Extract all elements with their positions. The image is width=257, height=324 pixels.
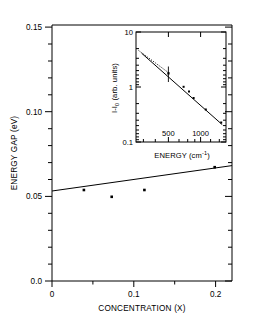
inset-yaxis-title: I-I0 (arb. units): [110, 63, 120, 113]
main-ytick-label-0: 0.0: [31, 277, 43, 286]
inset-plot: 10 1 0.1 500 1000 ENERGY (cm-1) I-I0 (ar…: [110, 28, 226, 160]
main-ytick-label-3: 0.15: [26, 23, 42, 32]
main-data-point: [83, 189, 86, 192]
main-yticks-major: [45, 27, 52, 281]
main-xtick-label-2: 0.2: [210, 290, 222, 299]
inset-data-point: [205, 109, 207, 111]
inset-xtick-labels: 500 1000: [162, 129, 209, 138]
inset-data-point: [193, 97, 195, 99]
inset-xaxis-title: ENERGY (cm-1): [154, 150, 210, 160]
inset-ytick-labels: 10 1 0.1: [122, 28, 133, 147]
figure-panel: 0.0 0.05 0.10 0.15 0 0.1 0.2 CONCENTRATI…: [0, 0, 257, 324]
inset-ytick-label-0: 0.1: [122, 138, 133, 147]
inset-data-point: [167, 72, 169, 74]
inset-frame: [136, 32, 226, 142]
main-data-point: [110, 196, 113, 199]
inset-xticks: [143, 32, 219, 142]
inset-fit-line: [142, 53, 223, 124]
inset-xtick-label-1: 1000: [192, 129, 209, 138]
main-xtick-labels: 0 0.1 0.2: [50, 290, 222, 299]
main-xtick-label-1: 0.1: [128, 290, 140, 299]
inset-data-point: [188, 91, 190, 93]
main-ytick-label-1: 0.05: [26, 192, 42, 201]
main-xticks: [52, 281, 216, 287]
main-ytick-label-2: 0.10: [26, 108, 42, 117]
main-xaxis-title: CONCENTRATION (X): [98, 304, 185, 313]
inset-data-points: [167, 72, 222, 123]
inset-ytick-label-2: 10: [125, 28, 133, 37]
inset-yticks-minor: [136, 49, 226, 140]
inset-xtick-label-0: 500: [162, 129, 175, 138]
main-data-point: [213, 166, 216, 169]
main-fit-line: [52, 166, 232, 191]
inset-data-point: [220, 122, 222, 124]
main-yticks-minor: [48, 44, 52, 264]
main-data-point: [143, 189, 146, 192]
inset-yticks-major: [136, 32, 226, 142]
inset-axis-spines: [136, 32, 226, 142]
chart-canvas: 0.0 0.05 0.10 0.15 0 0.1 0.2 CONCENTRATI…: [0, 0, 257, 324]
main-xtick-label-0: 0: [50, 290, 55, 299]
inset-extrapolation-line: [139, 50, 170, 73]
main-yaxis-title: ENERGY GAP (eV): [10, 116, 19, 191]
main-ytick-labels: 0.0 0.05 0.10 0.15: [26, 23, 42, 286]
inset-ytick-label-1: 1: [129, 83, 133, 92]
main-plot: 0.0 0.05 0.10 0.15 0 0.1 0.2 CONCENTRATI…: [10, 23, 232, 313]
inset-data-point: [183, 86, 185, 88]
